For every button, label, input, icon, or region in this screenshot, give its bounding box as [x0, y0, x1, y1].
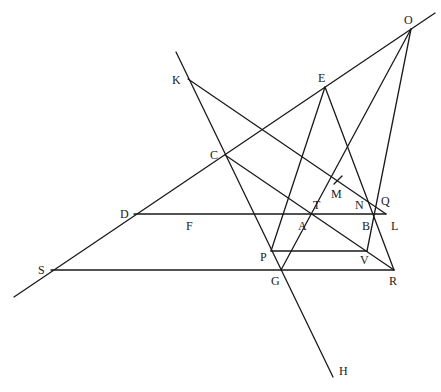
point-label-o: O — [404, 13, 413, 27]
point-label-n: N — [355, 198, 364, 212]
point-label-t: T — [313, 198, 321, 212]
point-label-p: P — [260, 250, 267, 264]
line-O-G — [281, 29, 411, 270]
point-label-l: L — [391, 219, 398, 233]
line-O-V — [367, 29, 411, 251]
point-label-d: D — [120, 207, 129, 221]
point-label-b: B — [362, 219, 370, 233]
point-label-f: F — [186, 219, 193, 233]
line-K-L — [188, 79, 386, 214]
point-label-m: M — [331, 187, 342, 201]
point-label-c: C — [210, 148, 218, 162]
point-label-r: R — [389, 274, 397, 288]
point-label-s: S — [38, 263, 45, 277]
point-label-k: K — [172, 73, 181, 87]
line-E-R — [325, 87, 394, 270]
point-label-q: Q — [381, 194, 390, 208]
point-label-e: E — [318, 71, 325, 85]
point-labels: OEKCMTNQDFABLPVSGRH — [38, 13, 413, 378]
geometry-diagram: OEKCMTNQDFABLPVSGRH — [0, 0, 441, 392]
point-label-g: G — [271, 274, 280, 288]
point-label-a: A — [298, 219, 307, 233]
point-label-h: H — [339, 364, 348, 378]
point-label-v: V — [360, 253, 369, 267]
construction-lines — [14, 13, 435, 377]
